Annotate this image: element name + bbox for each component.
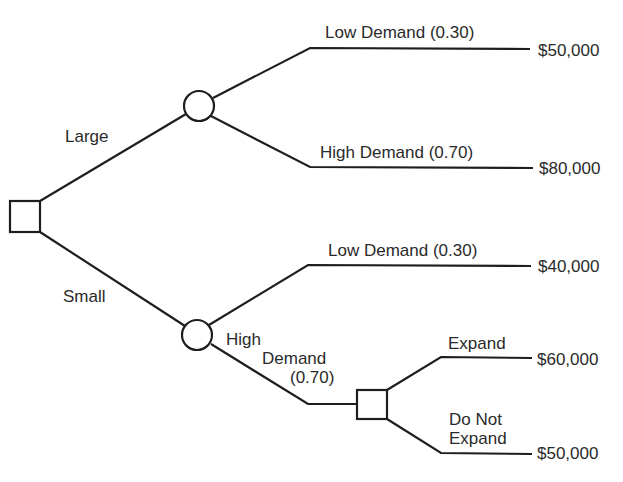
label-small-high-demand-3: (0.70) [290,368,334,387]
label-large-high-demand: High Demand (0.70) [320,143,473,162]
branch-small [40,232,185,326]
payoff-small-low: $40,000 [538,257,599,276]
chance-node-large [184,91,214,121]
label-large-low-demand: Low Demand (0.30) [325,23,474,42]
payoff-do-not-expand: $50,000 [537,444,598,463]
payoff-large-high: $80,000 [539,159,600,178]
branch-large-low [213,48,530,98]
label-do-not-expand-2: Expand [449,429,507,448]
branch-large [40,114,186,201]
branch-small-low [209,265,531,325]
label-small-low-demand: Low Demand (0.30) [328,241,477,260]
label-small-high-demand-1: High [226,330,261,349]
label-small-high-demand-2: Demand [262,349,326,368]
expand-decision-node [357,390,387,419]
decision-tree-diagram [0,0,623,482]
label-do-not-expand-1: Do Not [449,410,502,429]
payoff-large-low: $50,000 [538,41,599,60]
chance-node-small [182,320,212,350]
branch-expand [387,357,532,390]
label-small: Small [63,287,106,306]
label-expand: Expand [448,334,506,353]
payoff-expand: $60,000 [537,350,598,369]
root-decision-node [10,201,40,232]
label-large: Large [65,127,108,146]
